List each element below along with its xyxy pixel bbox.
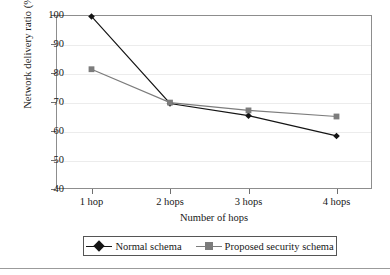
data-point bbox=[245, 112, 252, 119]
data-point bbox=[89, 66, 95, 72]
square-marker-icon bbox=[196, 241, 222, 251]
page-divider bbox=[0, 268, 390, 269]
data-point bbox=[333, 133, 340, 140]
legend-entry-normal-schema: Normal schema bbox=[86, 241, 181, 252]
legend-label: Proposed security schema bbox=[225, 241, 334, 252]
series-layer bbox=[0, 0, 390, 275]
series-proposed-security-schema-line bbox=[92, 69, 337, 116]
legend-entry-proposed-security-schema: Proposed security schema bbox=[196, 241, 334, 252]
diamond-marker-icon bbox=[86, 241, 112, 251]
data-point bbox=[246, 108, 252, 114]
chart-legend: Normal schema Proposed security schema bbox=[83, 236, 337, 256]
data-point bbox=[167, 100, 173, 106]
data-point bbox=[334, 114, 340, 120]
series-proposed-security-schema-markers bbox=[89, 66, 340, 119]
series-normal-schema-markers bbox=[88, 13, 340, 139]
chart-figure: Network delivery ratio (%) 100 90 80 70 … bbox=[0, 0, 390, 275]
series-normal-schema-line bbox=[92, 16, 337, 135]
legend-label: Normal schema bbox=[115, 241, 181, 252]
